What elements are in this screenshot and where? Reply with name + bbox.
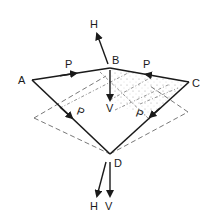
label-H-at-B: H bbox=[90, 18, 98, 30]
label-P-AB: P bbox=[65, 58, 72, 70]
label-V-at-B: V bbox=[106, 102, 114, 114]
label-C: C bbox=[192, 77, 200, 89]
label-D: D bbox=[114, 157, 122, 169]
label-A: A bbox=[18, 74, 26, 86]
label-V-at-D: V bbox=[105, 200, 113, 212]
label-P-AD: P bbox=[75, 105, 86, 119]
force-H-at-D-icon bbox=[97, 162, 106, 196]
label-P-BC: P bbox=[143, 58, 150, 70]
force-H-at-B-icon bbox=[97, 34, 108, 64]
label-H-at-D: H bbox=[90, 200, 98, 212]
label-B: B bbox=[112, 54, 119, 66]
force-diagram: A B C D P P P P H V H V bbox=[0, 0, 210, 224]
